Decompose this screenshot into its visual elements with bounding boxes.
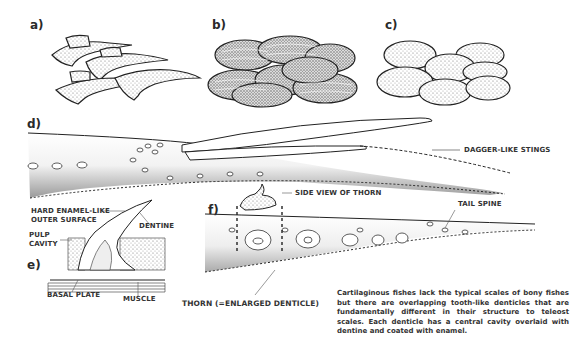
label-hard-enamel-1: HARD ENAMEL-LIKE: [31, 207, 110, 215]
panel-label-e: e): [27, 258, 41, 272]
panel-label-c: c): [385, 18, 398, 32]
caption-text: Cartilaginous fishes lack the typical sc…: [337, 289, 569, 337]
panel-d-stingray-tail: [28, 118, 510, 198]
panel-label-a: a): [30, 18, 44, 32]
label-hard-enamel-2: OUTER SURFACE: [31, 216, 97, 224]
label-dagger-like-stings: DAGGER-LIKE STINGS: [464, 146, 550, 154]
label-thorn-enlarged-denticle: THORN (=ENLARGED DENTICLE): [182, 299, 319, 308]
panel-label-d: d): [27, 117, 41, 131]
label-pulp-2: CAVITY: [29, 240, 58, 248]
side-view-thorn-drawing: [240, 184, 276, 210]
label-muscle: MUSCLE: [123, 295, 156, 303]
label-tail-spine: TAIL SPINE: [458, 200, 502, 208]
panel-label-f: f): [208, 203, 219, 217]
label-dentine: DENTINE: [139, 222, 174, 230]
panel-c-rounded-denticles: [377, 41, 510, 105]
panel-f-thorn-tail: [205, 184, 535, 272]
panel-a-hooked-denticles: [52, 35, 200, 104]
panel-label-b: b): [212, 18, 226, 32]
panel-b-ridged-denticles: [208, 36, 357, 107]
label-side-view-of-thorn: SIDE VIEW OF THORN: [295, 189, 381, 197]
label-pulp-1: PULP: [29, 231, 50, 239]
label-basal-plate: BASAL PLATE: [47, 291, 100, 299]
